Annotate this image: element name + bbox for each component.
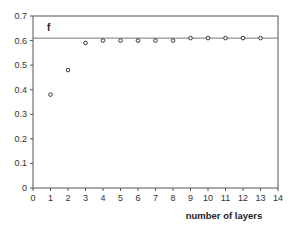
y-axis: 00.10.20.30.40.50.60.7: [14, 11, 33, 193]
data-point: [171, 39, 175, 43]
data-point: [136, 39, 140, 43]
x-tick-label: 3: [83, 193, 88, 203]
x-axis: 01234567891011121314: [30, 188, 283, 203]
data-point: [66, 68, 70, 72]
x-tick-label: 10: [203, 193, 213, 203]
y-tick-label: 0.7: [14, 11, 27, 21]
x-tick-label: 2: [65, 193, 70, 203]
x-tick-label: 9: [188, 193, 193, 203]
data-point: [49, 93, 53, 97]
series-annotation: f: [47, 22, 51, 33]
data-point: [154, 39, 158, 43]
x-tick-label: 0: [30, 193, 35, 203]
y-tick-label: 0.4: [14, 85, 27, 95]
y-tick-label: 0.2: [14, 134, 27, 144]
y-tick-label: 0: [22, 183, 27, 193]
y-tick-label: 0.3: [14, 109, 27, 119]
data-point: [224, 36, 228, 40]
x-tick-label: 1: [48, 193, 53, 203]
data-series: [49, 36, 263, 96]
data-point: [259, 36, 263, 40]
scatter-chart: 00.10.20.30.40.50.60.7 01234567891011121…: [0, 0, 292, 226]
x-tick-label: 4: [100, 193, 105, 203]
x-tick-label: 7: [153, 193, 158, 203]
x-axis-title: number of layers: [186, 210, 263, 221]
y-tick-label: 0.6: [14, 36, 27, 46]
x-tick-label: 8: [170, 193, 175, 203]
data-point: [119, 39, 123, 43]
x-tick-label: 5: [118, 193, 123, 203]
x-tick-label: 6: [135, 193, 140, 203]
data-point: [206, 36, 210, 40]
data-point: [101, 39, 105, 43]
x-tick-label: 13: [255, 193, 265, 203]
data-point: [241, 36, 245, 40]
data-point: [84, 41, 88, 45]
x-tick-label: 14: [273, 193, 283, 203]
x-tick-label: 11: [221, 193, 230, 203]
y-tick-label: 0.5: [14, 60, 27, 70]
data-point: [189, 36, 193, 40]
y-tick-label: 0.1: [14, 158, 27, 168]
x-tick-label: 12: [238, 193, 248, 203]
